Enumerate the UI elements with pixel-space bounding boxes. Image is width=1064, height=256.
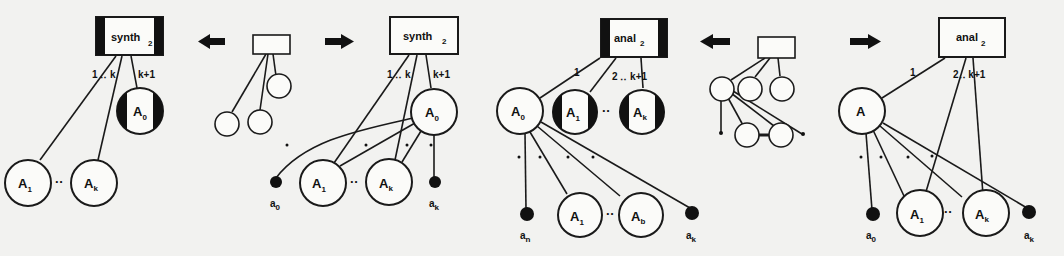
edge-label: 1 ‥ k <box>387 69 411 80</box>
box-label: anal <box>614 32 636 44</box>
node-A1-shaded: A1 <box>553 90 598 134</box>
arrow-left-icon <box>198 34 225 49</box>
edge-label: 1 ‥ k <box>92 69 116 80</box>
node-Ak <box>366 159 412 205</box>
panel-synth-after: synth 2 1 ‥ k k+1 A0 A1 ·· Ak a0 ak <box>270 17 458 212</box>
panel-synth-before: synth 2 1 ‥ k k+1 A0 A1 ·· Ak <box>5 17 163 206</box>
leaf-ak <box>685 206 699 220</box>
node-Ak: Ak <box>71 160 117 206</box>
tree-transformation-figure: synth 2 1 ‥ k k+1 A0 A1 ·· Ak <box>0 0 1064 256</box>
svg-text:2: 2 <box>442 37 447 46</box>
node-A1 <box>897 190 943 236</box>
node-A1: A1 <box>5 160 51 206</box>
leaf-a0 <box>270 176 282 188</box>
arrow-right-icon <box>850 34 881 49</box>
leaf-a0 <box>866 207 880 221</box>
svg-text:ak: ak <box>429 198 440 212</box>
anal-box: anal 2 <box>601 19 667 57</box>
node-A1 <box>300 160 346 206</box>
svg-text:··: ·· <box>944 204 953 219</box>
panel-synth-pattern <box>215 35 291 136</box>
edge-label: 1 <box>574 67 580 78</box>
node-A0-shaded: A0 <box>117 88 163 134</box>
svg-text:A: A <box>856 104 866 119</box>
panel-anal-before: anal 2 1 2 ‥ k+1 A0 A1 ·· Ak A1 ·· Ab an… <box>497 19 699 244</box>
node-A1-lower <box>558 193 602 237</box>
svg-text:··: ·· <box>55 174 64 189</box>
svg-text:a0: a0 <box>866 230 877 244</box>
edge-label: k+1 <box>138 69 155 80</box>
node-Ak-shaded: Ak <box>620 90 665 134</box>
svg-text:··: ·· <box>350 174 359 189</box>
leaf-ak <box>429 176 441 188</box>
svg-text:2: 2 <box>981 39 986 48</box>
leaf-an <box>520 207 534 221</box>
svg-text:a0: a0 <box>270 198 281 212</box>
edge-label: 2‥ k+1 <box>953 69 986 80</box>
node-Ak <box>963 190 1009 236</box>
svg-text:anal: anal <box>956 31 978 43</box>
svg-text:ak: ak <box>686 230 697 244</box>
svg-text:2: 2 <box>640 39 645 48</box>
svg-text:··: ·· <box>606 206 615 221</box>
svg-text:synth: synth <box>403 30 433 42</box>
leaf-ak <box>1022 205 1036 219</box>
svg-text:an: an <box>520 230 531 244</box>
node-Ab-lower <box>619 193 663 237</box>
synth-box: synth 2 <box>96 17 163 55</box>
edge-label: k+1 <box>433 69 450 80</box>
box-label: synth <box>111 31 141 43</box>
panel-anal-pattern <box>710 37 805 147</box>
svg-text:2: 2 <box>148 39 153 48</box>
edge-label: 2 ‥ k+1 <box>612 71 648 82</box>
arrow-left-icon <box>700 34 730 49</box>
svg-text:··: ·· <box>602 103 611 118</box>
svg-text:ak: ak <box>1024 230 1035 244</box>
panel-anal-after: anal 2 1 2‥ k+1 A A1 ·· Ak a0 ak <box>839 18 1036 244</box>
edge-label: 1 <box>910 67 916 78</box>
arrow-right-icon <box>325 34 354 49</box>
